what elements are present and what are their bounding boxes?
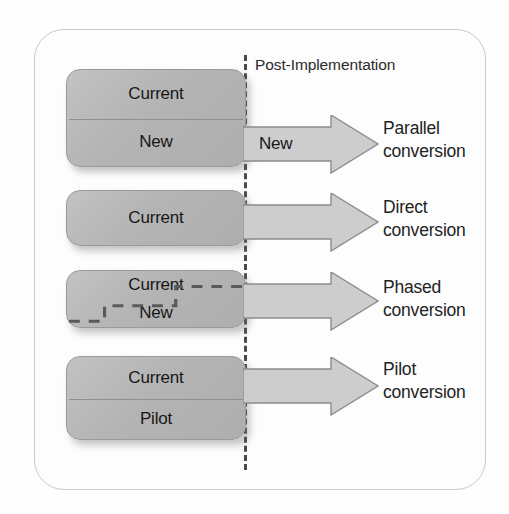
post-implementation-label: Post-Implementation <box>255 56 395 74</box>
row-phased-label-line2: conversion <box>383 299 466 322</box>
row-parallel-segment-current: Current <box>67 70 245 118</box>
row-parallel-label-line2: conversion <box>383 140 466 163</box>
row-parallel-label: Parallel conversion <box>383 117 466 163</box>
row-pilot-segment-pilot: Pilot <box>67 398 245 439</box>
conversion-strategies-diagram: Post-Implementation Current New New Para… <box>0 0 509 514</box>
row-phased-arrow <box>243 272 379 331</box>
row-parallel-system-box: Current New <box>66 69 246 167</box>
row-phased-system-box: Current New <box>66 270 246 328</box>
row-parallel-arrow-caption: New <box>259 134 292 154</box>
row-pilot-segment-current: Current <box>67 357 245 398</box>
row-direct-arrow <box>243 193 379 252</box>
row-pilot-arrow <box>243 357 379 416</box>
row-pilot-label: Pilot conversion <box>383 358 466 404</box>
row-phased-segment-current: Current <box>67 271 245 299</box>
row-direct-system-box: Current <box>66 190 246 246</box>
row-pilot-label-line1: Pilot <box>383 359 416 379</box>
row-phased-segment-new: New <box>67 299 245 327</box>
row-phased-label: Phased conversion <box>383 276 466 322</box>
row-direct-label: Direct conversion <box>383 196 466 242</box>
row-parallel-segment-new: New <box>67 118 245 166</box>
row-direct-label-line2: conversion <box>383 219 466 242</box>
row-phased-label-line1: Phased <box>383 277 441 297</box>
row-parallel-label-line1: Parallel <box>383 118 440 138</box>
row-direct-label-line1: Direct <box>383 197 428 217</box>
row-pilot-system-box: Current Pilot <box>66 356 246 440</box>
row-pilot-label-line2: conversion <box>383 381 466 404</box>
row-direct-segment-current: Current <box>67 191 245 245</box>
